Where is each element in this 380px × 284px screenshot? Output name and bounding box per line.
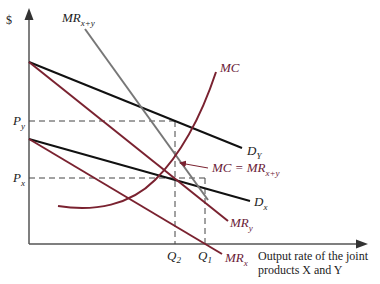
mry-label: MRy: [229, 215, 253, 233]
mrx-curve: [29, 139, 222, 254]
mc-label: MC: [219, 60, 240, 75]
q2-label: Q2: [167, 248, 181, 265]
dy-curve: [29, 62, 242, 148]
mrx-label: MRx: [224, 250, 248, 268]
dy-label: DY: [246, 143, 262, 161]
y-axis-label: $: [6, 13, 12, 27]
q1-label: Q1: [198, 248, 212, 265]
px-label: Px: [12, 170, 25, 188]
mc-equals-mrxy-label: MC = MRx+y: [211, 160, 280, 178]
joint-products-diagram: $ Py Px Q2 Q1 MRx+y MC DY MC = MRx+y Dx …: [0, 0, 380, 284]
x-axis-label-line1: Output rate of the joint: [258, 249, 369, 263]
mrxy-curve: [85, 29, 208, 200]
py-label: Py: [12, 113, 25, 131]
mrxy-label: MRx+y: [61, 10, 95, 28]
x-axis-label-line2: products X and Y: [258, 263, 343, 277]
mc-curve: [58, 72, 216, 208]
dx-label: Dx: [253, 194, 267, 212]
